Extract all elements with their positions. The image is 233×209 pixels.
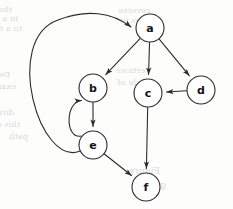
graph-edge-c-f — [146, 108, 147, 169]
graph-node-e[interactable]: e — [79, 131, 107, 159]
graph-node-f[interactable]: f — [132, 173, 160, 201]
edge-layer — [30, 13, 189, 175]
graph-edge-a-b — [106, 39, 140, 75]
node-label-e: e — [89, 139, 96, 152]
graph-node-c[interactable]: c — [134, 79, 162, 107]
graph-node-a[interactable]: a — [136, 14, 164, 42]
graph-figure: the graphin a graphto a nodereversenodes… — [0, 0, 233, 209]
directed-graph-canvas: abcdef — [0, 0, 233, 209]
graph-edge-d-c — [166, 91, 186, 92]
graph-edge-e-b — [69, 101, 81, 137]
node-label-d: d — [197, 84, 205, 97]
graph-node-b[interactable]: b — [79, 74, 107, 102]
graph-edge-a-d — [159, 39, 189, 76]
node-label-c: c — [145, 87, 152, 100]
graph-edge-e-f — [104, 154, 131, 176]
node-layer: abcdef — [79, 14, 215, 201]
graph-edge-a-c — [149, 42, 150, 74]
node-label-a: a — [146, 22, 153, 35]
node-label-f: f — [144, 181, 149, 194]
graph-node-d[interactable]: d — [187, 76, 215, 104]
node-label-b: b — [89, 82, 97, 95]
